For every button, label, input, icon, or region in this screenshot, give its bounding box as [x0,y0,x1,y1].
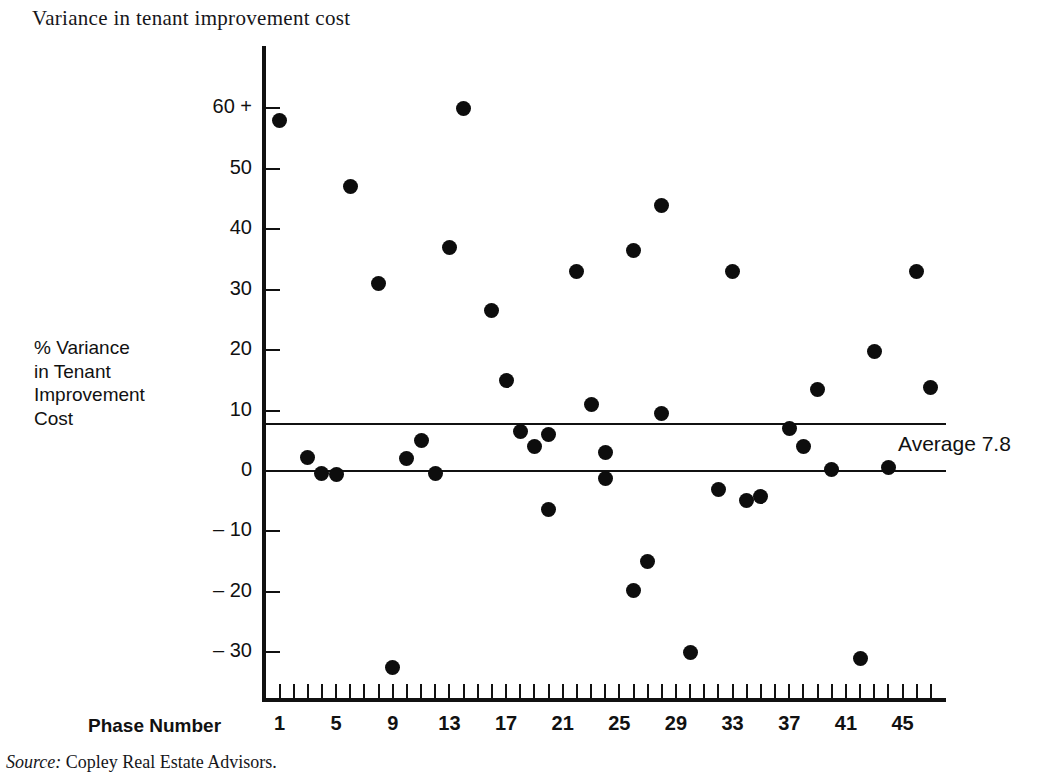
data-point [414,433,429,448]
x-axis-tick [420,684,422,699]
data-point [513,424,528,439]
y-axis-line [262,46,266,702]
x-axis-tick [463,684,465,699]
x-axis-tick [661,684,663,699]
data-point [923,380,938,395]
x-axis-tick-label: 45 [891,712,913,735]
x-axis-tick [746,684,748,699]
data-point [371,276,386,291]
x-axis-tick [321,684,323,699]
x-axis-tick-label: 5 [331,712,342,735]
data-point [541,427,556,442]
data-point [499,373,514,388]
y-axis-tick-label: – 10 [160,518,252,541]
x-axis-tick [845,684,847,699]
x-axis-tick-label: 13 [438,712,460,735]
x-axis-tick [406,684,408,699]
reference-line-average [264,423,946,425]
x-axis-tick [392,684,394,699]
data-point [796,439,811,454]
x-axis-tick [788,684,790,699]
x-axis-tick [760,684,762,699]
data-point [640,554,655,569]
y-axis-tick-label: – 30 [160,639,252,662]
data-point [626,583,641,598]
y-axis-tick [266,349,280,351]
x-axis-tick [930,684,932,699]
x-axis-tick-label: 41 [835,712,857,735]
x-axis-tick [448,684,450,699]
y-axis-tick [266,530,280,532]
data-point [456,101,471,116]
chart-figure: Variance in tenant improvement cost % Va… [0,0,1046,780]
y-axis-tick [266,651,280,653]
x-axis-tick [434,684,436,699]
data-point [541,502,556,517]
y-axis-tick [266,168,280,170]
y-axis-tick [266,410,280,412]
x-axis-tick [519,684,521,699]
data-point [272,113,287,128]
data-point [626,243,641,258]
data-point [824,462,839,477]
source-text: Copley Real Estate Advisors. [61,752,276,772]
y-axis-tick [266,228,280,230]
y-axis-tick-label: 30 [160,277,252,300]
x-axis-tick [307,684,309,699]
x-axis-tick [533,684,535,699]
x-axis-tick [378,684,380,699]
data-point [442,240,457,255]
x-axis-tick [873,684,875,699]
x-axis-tick [604,684,606,699]
x-axis-tick [802,684,804,699]
source-note: Source: Copley Real Estate Advisors. [6,752,277,773]
data-point [725,264,740,279]
x-axis-tick [902,684,904,699]
data-point [343,179,358,194]
x-axis-tick [916,684,918,699]
data-point [329,467,344,482]
data-point [300,450,315,465]
x-axis-tick [817,684,819,699]
data-point [711,482,726,497]
x-axis-tick [505,684,507,699]
x-axis-tick [590,684,592,699]
y-axis-tick-label: 40 [160,216,252,239]
data-point [399,451,414,466]
x-axis-tick [562,684,564,699]
x-axis-tick [363,684,365,699]
data-point [598,445,613,460]
plot-area: 60 +50403020100– 10– 20– 30 159131721252… [0,0,1046,780]
y-axis-tick-label: 50 [160,156,252,179]
y-axis-tick-label: 10 [160,398,252,421]
data-point [598,471,613,486]
data-point [683,645,698,660]
x-axis-tick [887,684,889,699]
x-axis-tick-label: 37 [778,712,800,735]
x-axis-tick [477,684,479,699]
data-point [739,493,754,508]
x-axis-tick [618,684,620,699]
x-axis-tick [335,684,337,699]
data-point [385,660,400,675]
x-axis-tick-label: 33 [721,712,743,735]
data-point [527,439,542,454]
data-point [428,466,443,481]
data-point [810,382,825,397]
x-axis-tick [279,684,281,699]
data-point [909,264,924,279]
y-axis-tick-label: – 20 [160,579,252,602]
data-point [867,344,882,359]
data-point [753,489,768,504]
y-axis-tick-label: 20 [160,337,252,360]
x-axis-tick [548,684,550,699]
x-axis-tick [732,684,734,699]
data-point [484,303,499,318]
x-axis-tick [703,684,705,699]
x-axis-tick-label: 1 [274,712,285,735]
x-axis-tick [859,684,861,699]
x-axis-tick-label: 25 [608,712,630,735]
x-axis-tick [633,684,635,699]
y-axis-tick [266,107,280,109]
data-point [782,421,797,436]
